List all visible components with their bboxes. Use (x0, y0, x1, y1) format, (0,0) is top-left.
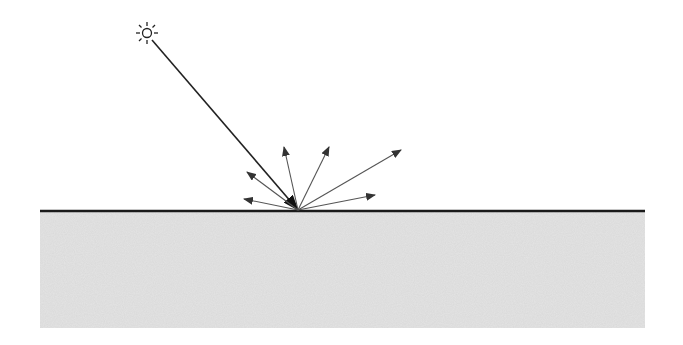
ground (40, 212, 645, 328)
diffuse-reflection-diagram (0, 0, 683, 345)
reflected-rays (244, 147, 401, 210)
reflected-ray-arrow (298, 195, 375, 210)
incident-ray-arrow (152, 40, 298, 210)
reflected-ray-arrow (298, 150, 401, 210)
sun-icon (136, 22, 158, 44)
